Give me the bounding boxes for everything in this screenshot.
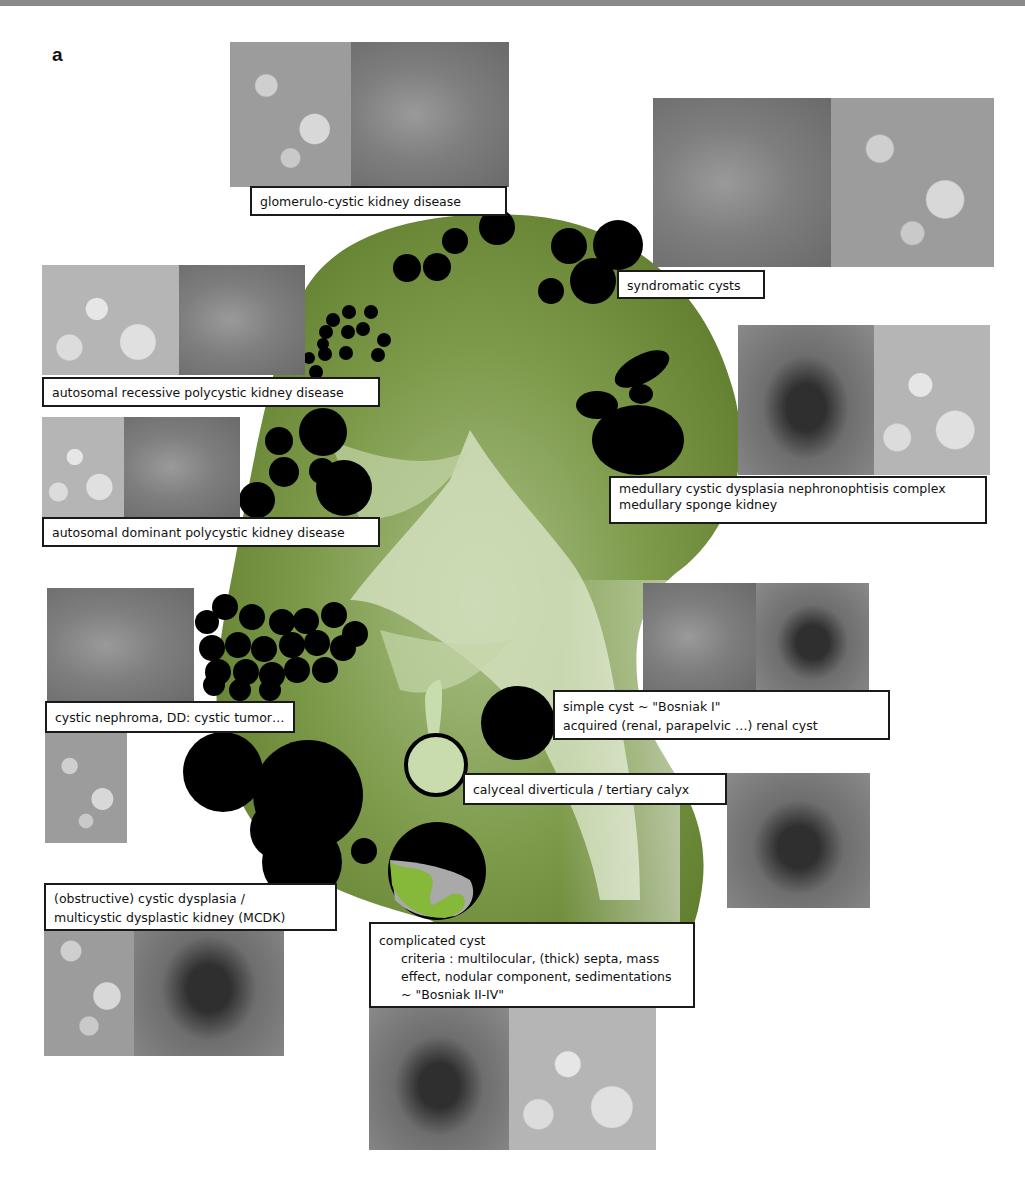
adpkd-histology — [42, 417, 124, 517]
arpkd-ultrasound — [42, 265, 179, 375]
simple-cyst-ultrasound-1 — [643, 583, 756, 691]
glomerulocystic-ultrasound — [351, 42, 509, 187]
simple-cyst — [481, 686, 555, 760]
label-glomerulocystic: glomerulo-cystic kidney disease — [250, 186, 507, 216]
label-syndromatic: syndromatic cysts — [617, 270, 765, 299]
syndromatic-histology — [831, 98, 994, 267]
label-cystic-nephroma: cystic nephroma, DD: cystic tumor… — [45, 701, 295, 733]
label-medullary: medullary cystic dysplasia nephronophtis… — [609, 476, 987, 524]
arpkd-ultrasound-2 — [179, 265, 305, 375]
syndromatic-ultrasound — [653, 98, 831, 267]
calyceal-ultrasound — [727, 773, 870, 908]
medullary-ultrasound — [738, 325, 874, 475]
label-simple-cyst: simple cyst ~ "Bosniak I" acquired (rena… — [553, 690, 890, 740]
glomerulocystic-histology — [230, 42, 351, 187]
label-calyceal: calyceal diverticula / tertiary calyx — [463, 773, 727, 805]
cystic-nephroma-histology — [45, 733, 127, 843]
simple-cyst-ultrasound-2 — [756, 583, 869, 691]
complicated-mri — [509, 1007, 656, 1150]
label-adpkd: autosomal dominant polycystic kidney dis… — [42, 517, 380, 547]
cystic-nephroma-ultrasound — [47, 588, 194, 703]
label-arpkd: autosomal recessive polycystic kidney di… — [42, 377, 380, 407]
complicated-cyst — [388, 822, 486, 920]
label-mcdk: (obstructive) cystic dysplasia / multicy… — [44, 883, 337, 931]
adpkd-ultrasound — [124, 417, 240, 517]
label-complicated: complicated cyst criteria : multilocular… — [369, 922, 695, 1008]
medullary-histology — [874, 325, 990, 475]
complicated-ct — [369, 1007, 509, 1150]
